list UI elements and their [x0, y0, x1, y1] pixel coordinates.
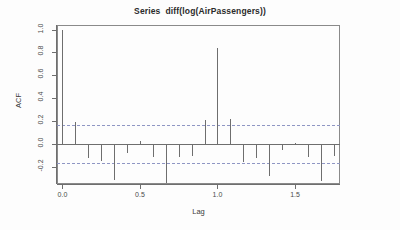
- acf-spike: [75, 122, 76, 144]
- y-tick-label: 0.0: [37, 132, 44, 152]
- x-tick-label: 0.0: [42, 191, 82, 198]
- x-tick-mark: [140, 185, 141, 189]
- y-tick-label: 0.6: [37, 64, 44, 84]
- y-axis-title: ACF: [14, 71, 23, 131]
- confidence-band-lower: [57, 163, 340, 164]
- acf-spike: [140, 141, 141, 144]
- acf-spike: [192, 144, 193, 156]
- acf-spike: [101, 144, 102, 161]
- x-tick-label: 0.5: [120, 191, 160, 198]
- acf-spike: [308, 144, 309, 157]
- x-tick-label: 1.0: [197, 191, 237, 198]
- y-tick-mark: [52, 121, 56, 122]
- x-axis-line: [57, 184, 340, 185]
- x-tick-mark: [295, 185, 296, 189]
- plot-data-area: [57, 25, 340, 184]
- y-tick-mark: [52, 144, 56, 145]
- y-tick-mark: [52, 52, 56, 53]
- acf-spike: [282, 144, 283, 150]
- y-tick-label: 1.0: [37, 18, 44, 38]
- x-tick-mark: [217, 185, 218, 189]
- acf-plot-canvas: Series diff(log(AirPassengers)) ACF Lag …: [0, 0, 400, 230]
- y-tick-mark: [52, 75, 56, 76]
- acf-spike: [295, 143, 296, 144]
- acf-spike: [230, 119, 231, 144]
- acf-spike: [269, 144, 270, 176]
- acf-spike: [166, 144, 167, 183]
- confidence-band-upper: [57, 125, 340, 126]
- x-tick-label: 1.5: [275, 191, 315, 198]
- acf-spike: [205, 120, 206, 144]
- x-tick-mark: [62, 185, 63, 189]
- y-tick-label: 0.8: [37, 41, 44, 61]
- acf-spike: [217, 48, 218, 144]
- acf-spike: [334, 144, 335, 156]
- acf-spike: [88, 144, 89, 158]
- y-tick-mark: [52, 167, 56, 168]
- acf-spike: [62, 30, 63, 144]
- y-tick-mark: [52, 98, 56, 99]
- x-axis-title: Lag: [57, 207, 340, 216]
- plot-title: Series diff(log(AirPassengers)): [0, 6, 400, 16]
- acf-spike: [243, 144, 244, 162]
- acf-spike: [114, 144, 115, 180]
- acf-spike: [321, 144, 322, 181]
- acf-spike: [127, 144, 128, 153]
- zero-reference-line: [57, 144, 340, 145]
- y-tick-label: 0.2: [37, 110, 44, 130]
- acf-spike: [153, 144, 154, 157]
- y-tick-label: -0.2: [37, 155, 44, 175]
- acf-spike: [179, 144, 180, 157]
- y-tick-mark: [52, 30, 56, 31]
- y-tick-label: 0.4: [37, 87, 44, 107]
- acf-spike: [256, 144, 257, 158]
